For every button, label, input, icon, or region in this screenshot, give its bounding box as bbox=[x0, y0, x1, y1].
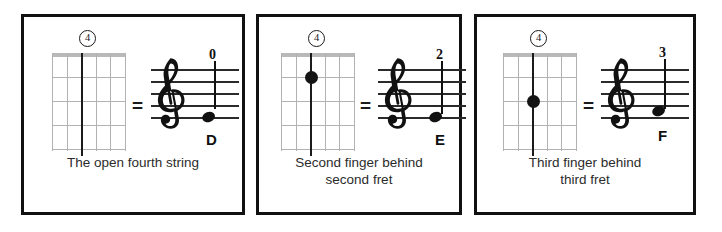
treble-clef-icon bbox=[153, 54, 187, 134]
caption-line-2: second fret bbox=[259, 171, 459, 188]
note-stem bbox=[214, 61, 216, 109]
fret-line-1 bbox=[503, 77, 577, 78]
fret-line-2 bbox=[52, 101, 126, 102]
string-line-2 bbox=[339, 53, 340, 151]
fret-line-4 bbox=[52, 149, 126, 150]
string-line-4-active bbox=[310, 53, 312, 156]
fretboard-diagram bbox=[52, 53, 126, 151]
caption-line-2: third fret bbox=[477, 171, 693, 188]
fret-number-label: 2 bbox=[436, 47, 443, 63]
string-number-badge: 4 bbox=[308, 30, 325, 47]
string-line-6 bbox=[52, 53, 53, 151]
fret-line-2 bbox=[281, 101, 355, 102]
caption-line-1: The open fourth string bbox=[24, 154, 242, 171]
string-number-badge: 4 bbox=[79, 30, 96, 47]
panel-second-finger-second-fret: 4 = bbox=[256, 14, 462, 215]
nut-line bbox=[52, 53, 126, 57]
string-line-5 bbox=[67, 53, 68, 151]
string-line-5 bbox=[518, 53, 519, 151]
fret-number-label: 3 bbox=[659, 45, 666, 61]
fret-line-4 bbox=[503, 149, 577, 150]
panel-caption: The open fourth string bbox=[24, 154, 242, 171]
panel-third-finger-third-fret: 4 = bbox=[474, 14, 696, 215]
note-letter-label: E bbox=[435, 131, 445, 148]
nut-line bbox=[503, 53, 577, 57]
string-line-2 bbox=[110, 53, 111, 151]
fret-line-3 bbox=[503, 125, 577, 126]
music-staff: 2 E bbox=[378, 69, 466, 121]
string-line-3 bbox=[96, 53, 97, 151]
panel-caption: Second finger behind second fret bbox=[259, 154, 459, 188]
finger-dot-second-fret bbox=[305, 71, 318, 84]
finger-dot-third-fret bbox=[527, 95, 540, 108]
fret-line-1 bbox=[52, 77, 126, 78]
caption-line-1: Second finger behind bbox=[259, 154, 459, 171]
string-number-badge: 4 bbox=[530, 30, 547, 47]
string-line-6 bbox=[281, 53, 282, 151]
string-line-6 bbox=[503, 53, 504, 151]
string-line-1 bbox=[576, 53, 577, 151]
fretboard-diagram bbox=[503, 53, 577, 151]
fret-line-3 bbox=[281, 125, 355, 126]
note-letter-label: D bbox=[206, 131, 217, 148]
fret-line-1 bbox=[281, 77, 355, 78]
panel-open-fourth-string: 4 = bbox=[21, 14, 245, 215]
panel-caption: Third finger behind third fret bbox=[477, 154, 693, 188]
guitar-diagram-board: 4 = bbox=[0, 0, 722, 232]
string-line-1 bbox=[354, 53, 355, 151]
equals-symbol: = bbox=[132, 95, 143, 117]
string-line-3 bbox=[547, 53, 548, 151]
note-stem bbox=[664, 59, 666, 109]
string-line-3 bbox=[325, 53, 326, 151]
treble-clef-icon bbox=[603, 54, 637, 134]
string-line-1 bbox=[125, 53, 126, 151]
note-letter-label: F bbox=[658, 127, 667, 144]
treble-clef-icon bbox=[380, 54, 414, 134]
fret-line-2 bbox=[503, 101, 577, 102]
music-staff: 0 D bbox=[151, 69, 239, 121]
fret-line-4 bbox=[281, 149, 355, 150]
equals-symbol: = bbox=[360, 95, 371, 117]
note-stem bbox=[441, 61, 443, 114]
fretboard-diagram bbox=[281, 53, 355, 151]
string-line-4-active bbox=[81, 53, 83, 156]
nut-line bbox=[281, 53, 355, 57]
string-line-5 bbox=[296, 53, 297, 151]
notehead-D bbox=[201, 110, 217, 124]
fret-number-label: 0 bbox=[209, 47, 216, 63]
music-staff: 3 F bbox=[601, 69, 689, 121]
string-line-2 bbox=[561, 53, 562, 151]
caption-line-1: Third finger behind bbox=[477, 154, 693, 171]
fret-line-3 bbox=[52, 125, 126, 126]
equals-symbol: = bbox=[583, 95, 594, 117]
